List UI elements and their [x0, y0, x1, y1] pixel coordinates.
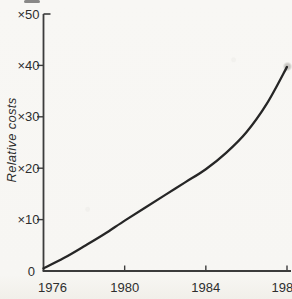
x-tick-label: 1976 [38, 280, 67, 295]
y-tick-label: ×30 [17, 109, 39, 124]
x-tick-label: 1988 [272, 280, 292, 295]
y-tick-label: ×10 [17, 212, 39, 227]
y-tick-label: 0 [28, 264, 35, 279]
y-tick-label: ×50 [17, 7, 39, 22]
x-tick-label: 1980 [110, 280, 139, 295]
cost-curve [44, 67, 288, 269]
y-tick-labels: ×50×40×30×20×100 [17, 7, 39, 279]
y-tick-label: ×20 [17, 161, 39, 176]
y-tick-label: ×40 [17, 58, 39, 73]
x-tick-label: 1984 [191, 280, 220, 295]
relative-costs-line-chart: Relative costs ×50×40×30×20×100 19761980… [0, 0, 292, 299]
chart-canvas: ×50×40×30×20×100 1976198019841988 [0, 0, 292, 299]
x-tick-labels: 1976198019841988 [38, 280, 292, 295]
